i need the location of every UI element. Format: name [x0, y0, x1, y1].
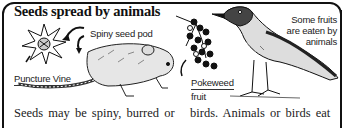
caption-line-1: Some fruits [287, 14, 337, 25]
figure-title: Seeds spread by animals [14, 3, 160, 20]
caption-line-2: are eaten by [287, 25, 337, 36]
body-text-left-column: Seeds may be spiny, burred or [14, 106, 175, 121]
spiny-seed-pod-label: Spiny seed pod [90, 28, 153, 39]
body-text-right-column: birds. Animals or birds eat [190, 106, 330, 121]
frame-right-edge [340, 10, 342, 128]
fruit-label: fruit [191, 91, 206, 102]
caption-line-3: animals [287, 36, 337, 47]
rat-illustration [8, 40, 178, 104]
frame-left-edge [2, 60, 4, 128]
fruits-eaten-caption: Some fruits are eaten by animals [287, 14, 337, 47]
